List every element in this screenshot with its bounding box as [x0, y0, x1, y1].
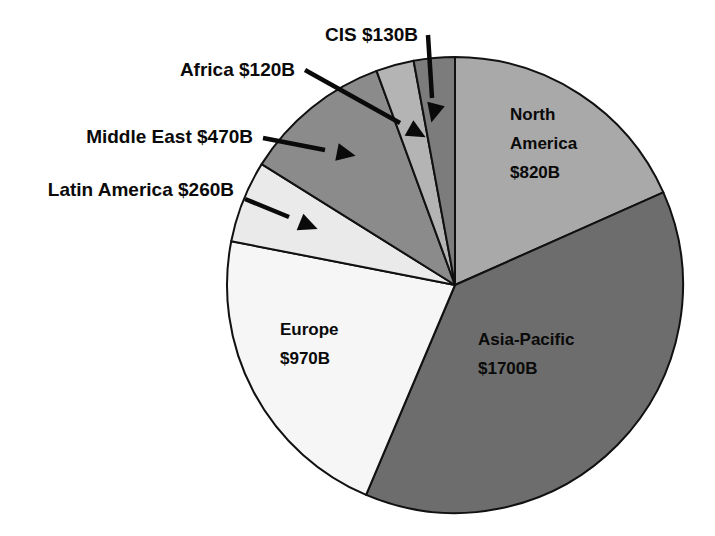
pie-slice-label-line: North: [510, 105, 555, 124]
pie-slice-label-line: $1700B: [478, 359, 538, 378]
pie-slice-label-line: Europe: [280, 320, 339, 339]
callout-label-cis: CIS $130B: [325, 24, 418, 45]
pie-slice-label-line: America: [510, 134, 578, 153]
callout-label-africa: Africa $120B: [180, 59, 295, 80]
pie-slice-label-line: $820B: [510, 163, 560, 182]
pie-slice-label-line: $970B: [280, 349, 330, 368]
pie-slices-group: [227, 57, 683, 513]
callout-label-middle-east: Middle East $470B: [86, 126, 253, 147]
pie-slice-label-line: Asia-Pacific: [478, 330, 574, 349]
pie-chart-svg: NorthAmerica$820BAsia-Pacific$1700BEurop…: [0, 0, 715, 536]
pie-chart-figure: NorthAmerica$820BAsia-Pacific$1700BEurop…: [0, 0, 715, 536]
callout-label-latin-america: Latin America $260B: [48, 179, 234, 200]
